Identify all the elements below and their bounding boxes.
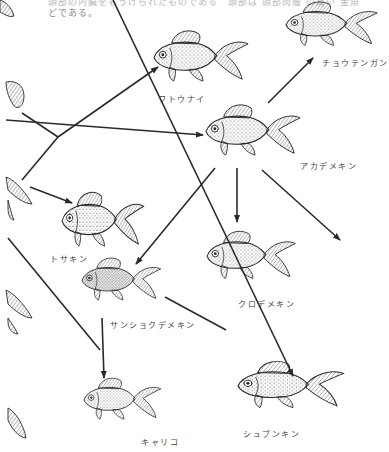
left-edge-fragments	[0, 0, 32, 438]
arrow-to-kyariko	[102, 318, 104, 378]
fragment-fin-mid2	[8, 200, 14, 220]
label-chotengan: チョウテンガン	[322, 57, 389, 68]
label-tosakin: トサキン	[50, 253, 88, 264]
label-watonai: ワトウナイ	[158, 93, 206, 104]
arrow-to-sanshokudemekin	[136, 168, 215, 264]
label-kurodemekin: クロデメキン	[238, 298, 295, 309]
fragment-fin-mid	[6, 177, 32, 204]
fish-sanshokudemekin-drawing	[82, 258, 161, 300]
fragment-fin-top	[0, 0, 14, 17]
fish-shubunkin-drawing	[238, 361, 344, 407]
arrow-branch-left	[22, 113, 58, 137]
fish-kyariko-drawing	[84, 378, 161, 419]
fragment-fin-upper	[6, 82, 24, 108]
label-akademekin: アカデメキン	[300, 160, 357, 171]
arrow-to-watonai	[58, 67, 158, 137]
arrow-to-tosakin	[30, 187, 72, 203]
label-kyariko: キャリコ	[141, 436, 179, 447]
fish-watonai-drawing	[154, 31, 248, 81]
fragment-fin-lower1	[6, 290, 32, 318]
arrow-to-chotengan	[268, 58, 313, 103]
label-sanshokudemekin: サンショクデメキン	[110, 319, 196, 330]
label-shubunkin: シュブンキン	[243, 428, 300, 439]
fish-akademekin-drawing	[206, 105, 300, 155]
fish-tosakin-drawing	[62, 192, 144, 246]
fragment-fin-lower2	[8, 318, 18, 334]
fish-chotengan-drawing	[286, 2, 377, 46]
arrow-branch-down	[22, 137, 58, 180]
fish-kurodemekin-drawing	[207, 231, 295, 278]
arrow-to-offpage	[262, 170, 340, 240]
fragment-fin-bottom	[8, 408, 26, 438]
